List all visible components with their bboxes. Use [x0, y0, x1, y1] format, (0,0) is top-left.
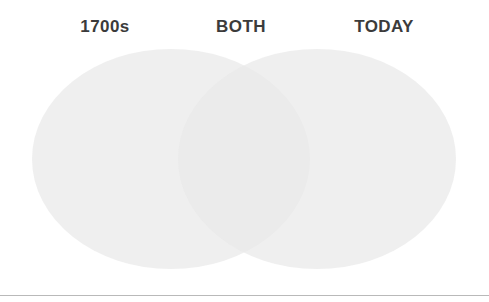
bottom-divider	[0, 295, 489, 296]
venn-label-right: TODAY	[354, 17, 414, 37]
venn-circle-right	[178, 49, 456, 269]
venn-circles-area	[0, 44, 489, 274]
venn-label-both: BOTH	[216, 17, 266, 37]
venn-label-left: 1700s	[80, 17, 129, 37]
venn-diagram-figure: 1700s BOTH TODAY	[0, 0, 489, 302]
venn-labels-row: 1700s BOTH TODAY	[0, 0, 489, 46]
